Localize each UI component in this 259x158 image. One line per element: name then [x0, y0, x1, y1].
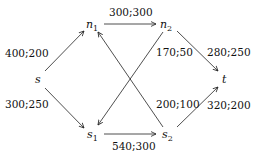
edge-s-s1	[45, 88, 84, 128]
edge-s-n1	[45, 31, 84, 71]
node-n2: n2	[160, 18, 172, 33]
label-n2-t: 280;250	[207, 46, 251, 58]
label-s2-n1: 200;100	[156, 98, 200, 110]
node-t: t	[222, 73, 227, 86]
label-s2-t: 320;200	[207, 99, 251, 111]
label-s-s1: 300;250	[5, 98, 49, 110]
label-s1-s2: 540;300	[112, 140, 156, 152]
node-n1: n1	[86, 18, 98, 33]
node-s2: s2	[162, 128, 173, 143]
label-s-n1: 400;200	[5, 47, 49, 59]
node-s1: s1	[87, 128, 98, 143]
node-s: s	[35, 73, 41, 86]
label-n1-n2: 300;300	[109, 6, 153, 18]
flow-network-diagram: s n1 n2 s1 s2 t 400;200 300;250 300;300 …	[0, 0, 259, 158]
label-n2-s1: 170;50	[156, 46, 193, 58]
